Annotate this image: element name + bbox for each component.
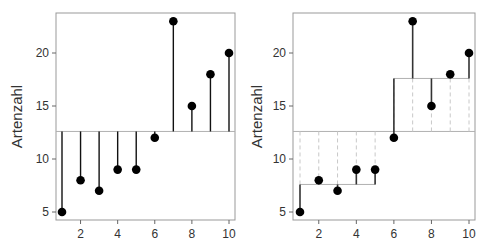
x-tick-label: 2 [77, 227, 84, 241]
panel-right: 5101520246810Artenzahl [248, 13, 476, 241]
plot-frame [56, 13, 235, 220]
y-tick-label: 15 [273, 99, 287, 113]
y-axis-title: Artenzahl [8, 85, 25, 148]
data-point [132, 165, 141, 174]
data-point [76, 176, 85, 185]
x-tick-label: 6 [391, 227, 398, 241]
x-tick-label: 10 [462, 227, 476, 241]
x-tick-label: 10 [222, 227, 236, 241]
y-tick-label: 5 [42, 205, 49, 219]
x-tick-label: 8 [189, 227, 196, 241]
data-point [95, 187, 104, 196]
x-tick-label: 2 [315, 227, 322, 241]
x-tick-label: 4 [114, 227, 121, 241]
data-point [333, 187, 342, 196]
y-axis-title: Artenzahl [248, 85, 265, 148]
data-point [408, 17, 417, 26]
data-point [427, 102, 436, 111]
plot-frame [293, 13, 475, 220]
data-point [225, 49, 234, 58]
data-point [371, 165, 380, 174]
x-tick-label: 4 [353, 227, 360, 241]
data-point [113, 165, 122, 174]
x-tick-label: 8 [428, 227, 435, 241]
panel-left: 5101520246810Artenzahl [8, 13, 236, 241]
data-point [465, 49, 474, 58]
y-tick-label: 20 [36, 46, 50, 60]
chart-figure: 5101520246810Artenzahl 5101520246810Arte… [0, 0, 490, 250]
y-tick-label: 5 [279, 205, 286, 219]
data-point [390, 134, 399, 143]
data-point [206, 70, 215, 79]
x-tick-label: 6 [151, 227, 158, 241]
data-point [352, 165, 361, 174]
data-point [58, 208, 67, 217]
y-tick-label: 10 [273, 152, 287, 166]
data-point [314, 176, 323, 185]
data-point [169, 17, 178, 26]
y-tick-label: 15 [36, 99, 50, 113]
data-point [150, 134, 159, 143]
y-tick-label: 10 [36, 152, 50, 166]
y-tick-label: 20 [273, 46, 287, 60]
data-point [188, 102, 197, 111]
data-point [296, 208, 305, 217]
data-point [446, 70, 455, 79]
